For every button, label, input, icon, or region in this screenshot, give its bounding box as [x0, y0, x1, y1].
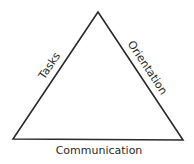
label-tasks: Tasks — [35, 50, 63, 83]
label-communication: Communication — [56, 144, 143, 157]
label-orientation: Orientation — [125, 38, 170, 97]
triangle-diagram: Tasks Orientation Communication — [0, 0, 194, 164]
